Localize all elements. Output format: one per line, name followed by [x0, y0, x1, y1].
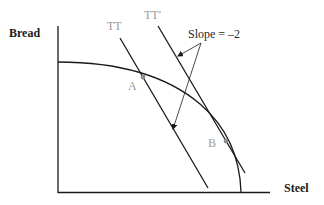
tt-line [120, 38, 208, 188]
production-possibility-curve [58, 62, 241, 192]
x-axis-label: Steel [284, 181, 309, 195]
tt-label: TT [107, 19, 122, 33]
ppf-diagram: Bread Steel TT TT′ A B Slope = –2 [0, 0, 324, 205]
point-b-marker [224, 139, 229, 144]
point-a-label: A [128, 79, 137, 93]
slope-arrow-to-tt [173, 43, 201, 129]
point-a-marker [141, 75, 146, 80]
point-b-label: B [208, 136, 216, 150]
tt-prime-line [158, 26, 245, 173]
slope-annotation: Slope = –2 [188, 27, 240, 41]
tt-prime-label: TT′ [144, 8, 162, 22]
y-axis-label: Bread [9, 26, 40, 40]
